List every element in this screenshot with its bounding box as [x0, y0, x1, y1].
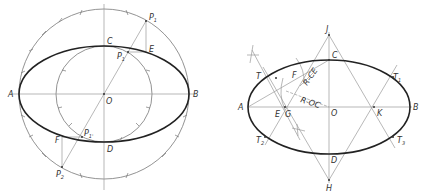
right-figure: A B C D O J H E G K F T T1 T2 T3 R-CE R-…	[237, 25, 419, 193]
label-T3: T3	[397, 136, 405, 146]
label-P2-inner: P1'	[84, 129, 93, 139]
label-H: H	[326, 184, 332, 193]
label-T1: T1	[393, 73, 401, 83]
label-E-right: E	[275, 110, 281, 119]
label-R-OC: R-OC	[299, 95, 322, 110]
label-F: F	[55, 136, 60, 145]
label-J: J	[324, 25, 329, 34]
label-F-right: F	[292, 71, 297, 80]
label-C: C	[107, 37, 113, 46]
label-D-right: D	[331, 156, 337, 165]
label-T2: T2	[256, 136, 264, 146]
label-P2: P2	[56, 170, 64, 180]
label-A-right: A	[237, 103, 243, 112]
label-B-right: B	[413, 103, 419, 112]
label-D: D	[107, 145, 113, 154]
label-R-CE: R-CE	[301, 66, 320, 88]
label-T: T	[256, 72, 262, 81]
label-C-right: C	[332, 51, 338, 60]
label-P1-inner: P1	[117, 52, 125, 62]
label-O: O	[106, 97, 112, 106]
label-B: B	[193, 90, 199, 99]
label-O-right: O	[331, 109, 337, 118]
label-P1: P1	[149, 13, 157, 23]
label-K: K	[377, 109, 383, 118]
label-A: A	[7, 90, 13, 99]
label-E: E	[149, 45, 155, 54]
left-figure: A B C D O P1 P1 E F P2 P1'	[7, 4, 199, 190]
label-G: G	[285, 110, 291, 119]
drawing-canvas: A B C D O P1 P1 E F P2 P1'	[0, 0, 423, 194]
